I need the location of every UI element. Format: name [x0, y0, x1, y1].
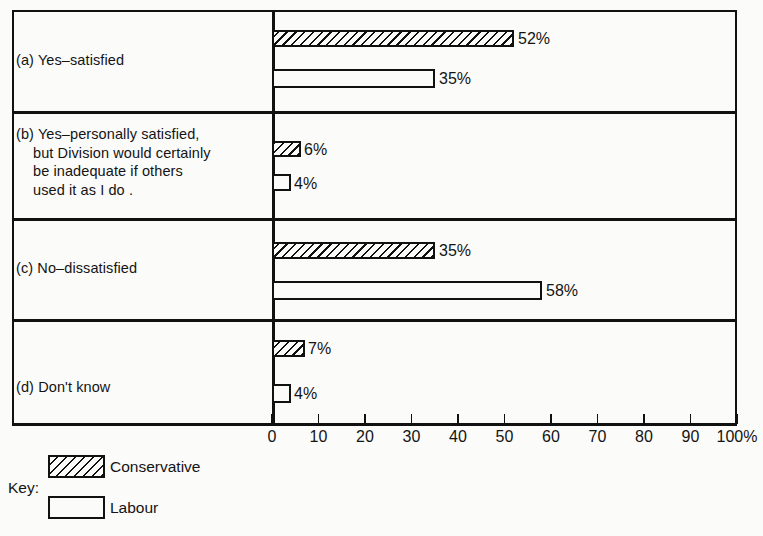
axis-tick-70	[597, 414, 599, 424]
axis-tick-label-70: 70	[589, 428, 607, 446]
row-separator-a-b	[12, 111, 737, 114]
axis-tick-60	[550, 414, 552, 424]
group-label-c-line-1: (c) No–dissatisfied	[16, 259, 266, 278]
group-label-b-line-4: used it as I do .	[16, 181, 266, 200]
bar-a-conservative	[272, 30, 514, 47]
bar-a-labour	[272, 69, 435, 88]
group-label-b-line-3: be inadequate if others	[16, 162, 266, 181]
group-label-a: (a) Yes–satisfied	[16, 51, 266, 70]
axis-tick-label-0: 0	[268, 428, 277, 446]
axis-tick-label-60: 60	[542, 428, 560, 446]
bar-value-a-conservative: 52%	[518, 31, 550, 47]
legend-label-conservative: Conservative	[110, 458, 200, 476]
bar-d-conservative	[272, 340, 305, 357]
axis-tick-label-10: 10	[310, 428, 328, 446]
axis-tick-100	[736, 414, 738, 424]
bar-value-c-conservative: 35%	[439, 243, 471, 259]
row-separator-c-d	[12, 319, 737, 322]
bar-value-b-conservative: 6%	[304, 142, 327, 158]
axis-tick-80	[643, 414, 645, 424]
chart-figure: (a) Yes–satisfied 52% 35% (b) Yes–person…	[0, 0, 763, 536]
axis-tick-30	[411, 414, 413, 424]
group-label-b: (b) Yes–personally satisfied, but Divisi…	[16, 125, 266, 199]
axis-tick-50	[504, 414, 506, 424]
bar-value-c-labour: 58%	[546, 283, 578, 299]
bar-b-conservative	[272, 141, 301, 157]
value-axis-line	[12, 423, 737, 426]
bar-c-labour	[272, 281, 542, 300]
bar-value-b-labour: 4%	[294, 176, 317, 192]
axis-tick-40	[457, 414, 459, 424]
axis-tick-20	[364, 414, 366, 424]
axis-tick-label-40: 40	[449, 428, 467, 446]
group-label-c: (c) No–dissatisfied	[16, 259, 266, 278]
axis-tick-label-100: 100%	[717, 428, 758, 446]
axis-tick-90	[690, 414, 692, 424]
bar-value-d-labour: 4%	[294, 386, 317, 402]
axis-tick-10	[318, 414, 320, 424]
bar-d-labour	[272, 384, 291, 403]
axis-tick-label-90: 90	[682, 428, 700, 446]
legend-label-labour: Labour	[110, 499, 158, 517]
legend-swatch-labour	[48, 496, 105, 519]
axis-tick-label-30: 30	[403, 428, 421, 446]
axis-tick-label-50: 50	[496, 428, 514, 446]
legend-title: Key:	[8, 479, 39, 497]
bar-b-labour	[272, 174, 291, 191]
group-label-a-line-1: (a) Yes–satisfied	[16, 51, 266, 70]
group-label-b-line-1: (b) Yes–personally satisfied,	[16, 125, 266, 144]
group-label-d: (d) Don't know	[16, 378, 266, 397]
legend-swatch-conservative	[48, 455, 105, 478]
row-separator-b-c	[12, 218, 737, 221]
group-label-b-line-2: but Division would certainly	[16, 144, 266, 163]
bar-value-d-conservative: 7%	[308, 341, 331, 357]
axis-tick-label-20: 20	[356, 428, 374, 446]
bar-c-conservative	[272, 242, 435, 259]
group-label-d-line-1: (d) Don't know	[16, 378, 266, 397]
bar-value-a-labour: 35%	[439, 71, 471, 87]
axis-tick-0	[271, 414, 273, 424]
axis-tick-label-80: 80	[635, 428, 653, 446]
